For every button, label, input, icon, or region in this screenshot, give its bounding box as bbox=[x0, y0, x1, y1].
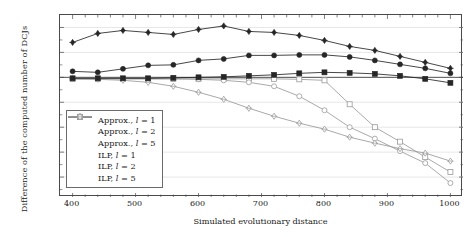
legend-item: ILP, l = 1 bbox=[71, 149, 156, 161]
legend-filled-diamond-icon bbox=[71, 137, 97, 149]
legend-filled-circle-icon bbox=[71, 126, 97, 138]
legend-label: Approx., l = 1 bbox=[97, 115, 156, 125]
x-tick-label: 400 bbox=[64, 199, 79, 208]
chart-container: Difference of the computed number of DCJ… bbox=[0, 0, 472, 237]
x-tick-label: 900 bbox=[379, 199, 394, 208]
x-tick-label: 500 bbox=[127, 199, 142, 208]
legend-label: Approx., l = 5 bbox=[97, 138, 156, 148]
legend-item: Approx., l = 2 bbox=[71, 126, 156, 138]
legend-label: ILP, l = 1 bbox=[97, 150, 136, 160]
x-tick-label: 800 bbox=[316, 199, 331, 208]
legend-open-diamond-icon bbox=[71, 172, 97, 184]
legend: Approx., l = 1Approx., l = 2Approx., l =… bbox=[66, 110, 163, 188]
legend-open-square-icon bbox=[71, 149, 97, 161]
legend-item: Approx., l = 5 bbox=[71, 137, 156, 149]
x-tick-label: 700 bbox=[253, 199, 268, 208]
y-axis-label: Difference of the computed number of DCJ… bbox=[19, 19, 29, 219]
x-tick-label: 600 bbox=[190, 199, 205, 208]
legend-item: ILP, l = 5 bbox=[71, 172, 156, 184]
series-2 bbox=[69, 23, 453, 72]
legend-label: ILP, l = 2 bbox=[97, 161, 136, 171]
legend-label: ILP, l = 5 bbox=[97, 173, 136, 183]
legend-item: ILP, l = 2 bbox=[71, 160, 156, 172]
legend-label: Approx., l = 2 bbox=[97, 126, 156, 136]
x-axis-label: Simulated evolutionary distance bbox=[59, 216, 462, 226]
x-tick-label: 1000 bbox=[439, 199, 459, 208]
series-1 bbox=[70, 52, 453, 75]
legend-open-circle-icon bbox=[71, 160, 97, 172]
